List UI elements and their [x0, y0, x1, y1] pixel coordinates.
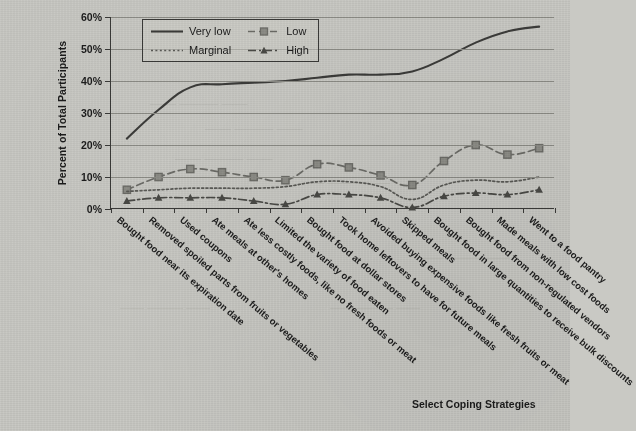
y-axis-title: Percent of Total Participants — [56, 41, 68, 186]
y-axis-tick-label: 60% — [81, 11, 102, 23]
y-axis-tick — [105, 177, 111, 178]
x-axis-tick — [238, 208, 239, 213]
x-axis-tick — [301, 208, 302, 213]
y-axis-tick-label: 50% — [81, 43, 102, 55]
legend-swatch-icon — [247, 26, 281, 37]
legend-label: Marginal — [189, 44, 231, 56]
x-axis-tick — [396, 208, 397, 213]
series-low — [123, 141, 542, 193]
y-axis-tick-label: 0% — [87, 203, 102, 215]
y-axis-tick-label: 30% — [81, 107, 102, 119]
x-axis-tick — [333, 208, 334, 213]
legend-item-high[interactable]: High — [247, 44, 309, 56]
y-axis-tick-label: 10% — [81, 171, 102, 183]
legend-swatch-icon — [150, 45, 184, 56]
x-axis-tick — [428, 208, 429, 213]
x-axis-category-label: Limited the variety of food eaten — [273, 214, 392, 316]
gridline — [111, 17, 554, 18]
x-axis-category-label: Bought food from non-regulated vendors — [464, 214, 613, 342]
series-line — [127, 177, 539, 199]
y-axis-tick — [105, 145, 111, 146]
series-high — [123, 186, 543, 211]
y-axis-tick-label: 40% — [81, 75, 102, 87]
data-point-marker — [314, 161, 321, 168]
legend-label: Very low — [189, 25, 231, 37]
data-point-marker — [218, 169, 225, 176]
y-axis-tick-label: 20% — [81, 139, 102, 151]
data-point-marker — [123, 186, 130, 193]
data-point-marker — [345, 164, 352, 171]
series-marginal — [127, 177, 539, 199]
legend-item-very-low[interactable]: Very low — [150, 25, 231, 37]
legend-label: High — [286, 44, 309, 56]
x-axis-category-labels: Bought food near its expiration dateRemo… — [110, 214, 554, 424]
y-axis-tick — [105, 81, 111, 82]
legend-item-marginal[interactable]: Marginal — [150, 44, 231, 56]
x-axis-tick — [143, 208, 144, 213]
data-point-marker — [535, 186, 543, 193]
x-axis-tick — [460, 208, 461, 213]
data-point-marker — [409, 181, 416, 188]
x-axis-tick — [206, 208, 207, 213]
legend-swatch-icon — [150, 26, 184, 37]
legend-label: Low — [286, 25, 306, 37]
x-axis-tick — [270, 208, 271, 213]
legend-swatch-icon — [247, 45, 281, 56]
gridline — [111, 145, 554, 146]
x-axis-tick — [523, 208, 524, 213]
x-axis-category-label: Skipped meals — [400, 214, 458, 265]
y-axis-tick — [105, 17, 111, 18]
chart-legend: Very lowLowMarginalHigh — [142, 19, 319, 62]
data-point-marker — [504, 151, 511, 158]
gridline — [111, 113, 554, 114]
data-point-marker — [440, 157, 447, 164]
x-axis-tick — [555, 208, 556, 213]
gridline — [111, 177, 554, 178]
data-point-marker — [187, 165, 194, 172]
x-axis-tick — [174, 208, 175, 213]
x-axis-tick — [365, 208, 366, 213]
gridline — [111, 81, 554, 82]
x-axis-tick — [492, 208, 493, 213]
legend-item-low[interactable]: Low — [247, 25, 309, 37]
y-axis-tick — [105, 113, 111, 114]
y-axis-tick — [105, 49, 111, 50]
x-axis-tick — [111, 208, 112, 213]
